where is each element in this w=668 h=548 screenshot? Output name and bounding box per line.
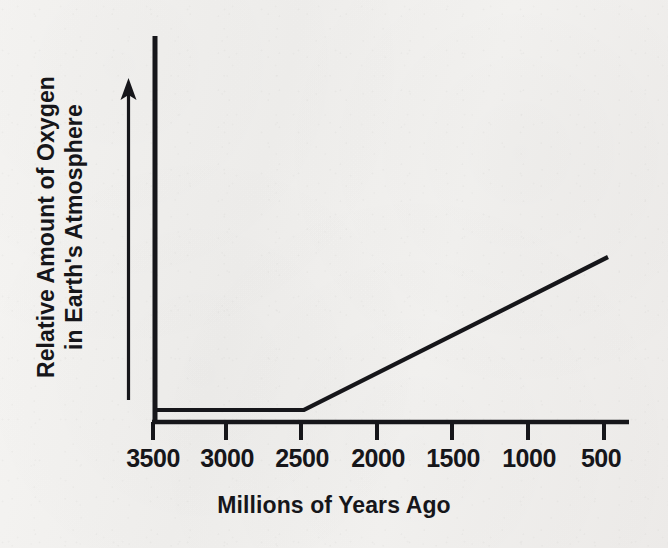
x-axis-ticks (153, 422, 604, 440)
x-tick-label-1000: 1000 (502, 444, 556, 473)
x-tick-label-3500: 3500 (126, 444, 180, 473)
x-tick-label-500: 500 (581, 444, 621, 473)
x-tick-label-3000: 3000 (200, 444, 254, 473)
upward-arrow-icon (121, 78, 137, 400)
x-tick-label-1500: 1500 (426, 444, 480, 473)
oxygen-data-line (154, 257, 608, 410)
y-axis-title-line-2: in Earth's Atmosphere (60, 76, 88, 378)
y-axis-title-line-1: Relative Amount of Oxygen (32, 76, 60, 378)
y-axis-title: Relative Amount of Oxygen in Earth's Atm… (10, 36, 110, 418)
x-tick-label-2500: 2500 (275, 444, 329, 473)
x-tick-label-2000: 2000 (351, 444, 405, 473)
oxygen-over-time-chart-figure: 3500 3000 2500 2000 1500 1000 500 Millio… (0, 0, 668, 548)
x-axis-title: Millions of Years Ago (0, 492, 668, 519)
